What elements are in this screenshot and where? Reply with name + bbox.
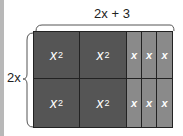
area-model-grid: x2 x2 x x x x2 x2 x x x <box>33 31 173 128</box>
x-squared-tile: x2 <box>34 32 79 78</box>
side-brace <box>23 33 33 127</box>
x-strip-tile: x <box>142 79 156 127</box>
x-strip-tile: x <box>127 32 141 78</box>
x-squared-tile: x2 <box>34 79 79 127</box>
width-label: 2x + 3 <box>82 6 142 21</box>
x-strip-tile: x <box>157 79 172 127</box>
x-squared-tile: x2 <box>80 32 126 78</box>
x-strip-tile: x <box>157 32 172 78</box>
height-label: 2x <box>7 70 21 85</box>
x-strip-tile: x <box>142 32 156 78</box>
x-squared-tile: x2 <box>80 79 126 127</box>
x-strip-tile: x <box>127 79 141 127</box>
